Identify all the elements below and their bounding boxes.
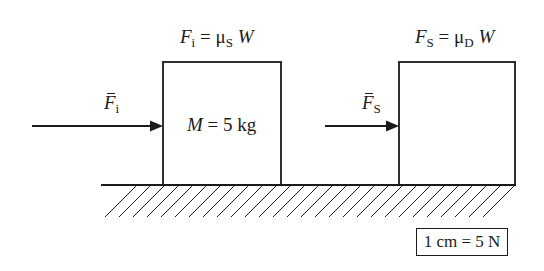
- mass-value: = 5 kg: [203, 114, 256, 135]
- mass-symbol: M: [187, 114, 203, 135]
- ground-hatching: [105, 185, 515, 217]
- block-2-friction-equation: FS = μD W: [415, 26, 494, 51]
- equals-sign: =: [200, 26, 211, 47]
- force-subscript: S: [427, 35, 434, 50]
- equals-sign: =: [439, 26, 450, 47]
- force-subscript: i: [192, 35, 196, 50]
- mu-symbol: μ: [215, 26, 225, 47]
- arrow-1-label: Fi: [104, 92, 119, 117]
- force-arrow-1: [32, 121, 163, 132]
- arrow-2-label: FS: [362, 92, 381, 117]
- force-symbol: F: [415, 26, 427, 47]
- force-vector-symbol: F: [104, 92, 116, 114]
- block-1-friction-equation: Fi = μS W: [180, 26, 253, 51]
- block-1-mass-label: M = 5 kg: [187, 114, 256, 136]
- weight-symbol: W: [478, 26, 494, 47]
- mu-symbol: μ: [454, 26, 464, 47]
- weight-symbol: W: [238, 26, 254, 47]
- mu-subscript: S: [226, 35, 233, 50]
- force-symbol: F: [180, 26, 192, 47]
- block-2: [399, 62, 515, 185]
- force-vector-symbol: F: [362, 92, 374, 114]
- scale-legend: 1 cm = 5 N: [416, 228, 508, 256]
- force-arrow-2: [325, 121, 399, 132]
- mu-subscript: D: [464, 35, 473, 50]
- scale-text: 1 cm = 5 N: [424, 232, 501, 251]
- force-vector-subscript: i: [116, 101, 120, 116]
- force-vector-subscript: S: [374, 101, 381, 116]
